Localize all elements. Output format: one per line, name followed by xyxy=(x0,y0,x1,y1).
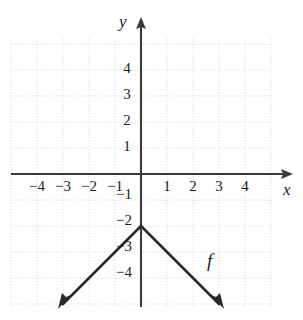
coordinate-plane xyxy=(0,0,303,320)
y-tick-label-3: 3 xyxy=(118,86,136,103)
y-axis-label: y xyxy=(119,12,127,32)
x-tick-label-neg3: −3 xyxy=(53,178,73,195)
y-tick-label-4: 4 xyxy=(118,60,136,77)
x-tick-label-4: 4 xyxy=(236,178,254,195)
x-tick-label-2: 2 xyxy=(184,178,202,195)
y-tick-label-neg1: −1 xyxy=(112,186,136,203)
x-tick-label-1: 1 xyxy=(158,178,176,195)
y-tick-label-1: 1 xyxy=(118,138,136,155)
x-tick-label-neg2: −2 xyxy=(79,178,99,195)
function-label-f: f xyxy=(207,250,212,272)
y-axis xyxy=(136,17,146,307)
x-axis-label: x xyxy=(283,180,291,200)
graph-figure: −4 −3 −2 −1 1 2 3 4 4 3 2 1 −1 −2 −3 −4 … xyxy=(0,0,303,320)
x-tick-label-3: 3 xyxy=(210,178,228,195)
y-tick-label-neg2: −2 xyxy=(112,212,136,229)
y-tick-label-neg3: −3 xyxy=(112,238,136,255)
x-tick-label-neg4: −4 xyxy=(27,178,47,195)
y-tick-label-2: 2 xyxy=(118,112,136,129)
y-tick-label-neg4: −4 xyxy=(112,264,136,281)
